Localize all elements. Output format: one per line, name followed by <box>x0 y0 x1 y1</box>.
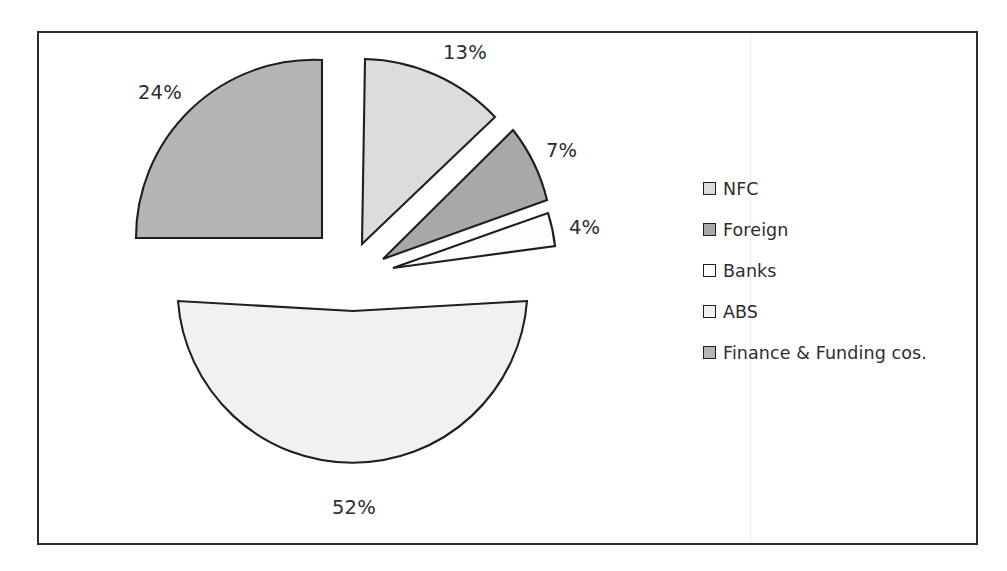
data-label-foreign: 7% <box>546 139 577 162</box>
data-label-nfc: 13% <box>443 41 487 64</box>
legend-swatch-icon <box>703 305 716 318</box>
legend-item-label: Foreign <box>723 220 789 240</box>
data-label-finance: 24% <box>138 81 182 104</box>
legend-swatch-icon <box>703 182 716 195</box>
legend-swatch-icon <box>703 346 716 359</box>
legend-item-label: ABS <box>723 302 758 322</box>
legend-swatch-icon <box>703 264 716 277</box>
legend-swatch-icon <box>703 223 716 236</box>
pie-chart: 13% 7% 4% 24% 52% NFC Foreign Banks ABS … <box>0 0 1007 571</box>
legend-item-finance[interactable]: Finance & Funding cos. <box>703 332 983 373</box>
legend-item-nfc[interactable]: NFC <box>703 168 983 209</box>
data-label-abs: 52% <box>332 496 376 519</box>
pie-slice-abs[interactable] <box>178 301 527 463</box>
chart-legend: NFC Foreign Banks ABS Finance & Funding … <box>703 168 983 373</box>
legend-item-label: Finance & Funding cos. <box>723 343 927 363</box>
legend-item-abs[interactable]: ABS <box>703 291 983 332</box>
legend-item-banks[interactable]: Banks <box>703 250 983 291</box>
legend-item-foreign[interactable]: Foreign <box>703 209 983 250</box>
legend-item-label: NFC <box>723 179 759 199</box>
legend-item-label: Banks <box>723 261 777 281</box>
data-label-banks: 4% <box>569 216 600 239</box>
